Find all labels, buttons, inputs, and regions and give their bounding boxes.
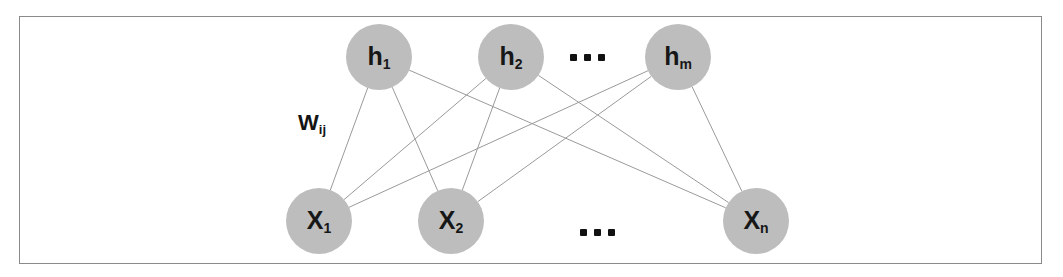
edge-h1-x1	[330, 88, 367, 190]
node-x1[interactable]: X1	[286, 188, 352, 254]
weight-label-base: W	[298, 110, 319, 135]
ellipsis-dot	[570, 54, 577, 61]
edge-hm-x2	[478, 76, 652, 201]
node-label-hm: hm	[664, 44, 692, 69]
edge-h2-x2	[462, 88, 499, 190]
ellipsis-dot	[594, 229, 601, 236]
node-h1[interactable]: h1	[346, 24, 412, 90]
ellipsis-dot	[598, 54, 605, 61]
node-label-subscript-h2: 2	[515, 56, 523, 72]
node-h2[interactable]: h2	[478, 24, 544, 90]
node-label-subscript-x2: 2	[455, 220, 463, 236]
edge-h2-x1	[344, 78, 486, 199]
edge-h1-xn	[409, 70, 725, 208]
node-label-base-hm: h	[664, 42, 679, 70]
node-x2[interactable]: X2	[418, 188, 484, 254]
ellipsis-dot	[608, 229, 615, 236]
node-label-base-x1: X	[307, 206, 324, 234]
node-hm[interactable]: hm	[645, 24, 711, 90]
node-label-xn: Xn	[743, 208, 768, 233]
ellipsis-dot	[580, 229, 587, 236]
edge-hm-xn	[692, 87, 742, 191]
rbm-diagram: h1h2hmX1X2Xn Wij	[0, 0, 1063, 277]
node-label-subscript-h1: 1	[383, 56, 391, 72]
node-label-base-x2: X	[439, 206, 456, 234]
node-label-x2: X2	[439, 208, 463, 233]
node-label-base-h1: h	[367, 42, 382, 70]
node-xn[interactable]: Xn	[723, 188, 789, 254]
weight-label: Wij	[298, 112, 326, 134]
node-label-x1: X1	[307, 208, 331, 233]
ellipsis-hidden-layer	[570, 54, 605, 61]
node-label-subscript-x1: 1	[323, 220, 331, 236]
ellipsis-visible-layer	[580, 229, 615, 236]
node-label-subscript-xn: n	[760, 220, 769, 236]
weight-label-subscript: ij	[319, 122, 326, 137]
node-label-subscript-hm: m	[679, 56, 691, 72]
node-label-h1: h1	[367, 44, 390, 69]
node-label-base-xn: X	[743, 206, 760, 234]
ellipsis-dot	[584, 54, 591, 61]
node-label-base-h2: h	[499, 42, 514, 70]
node-label-h2: h2	[499, 44, 522, 69]
